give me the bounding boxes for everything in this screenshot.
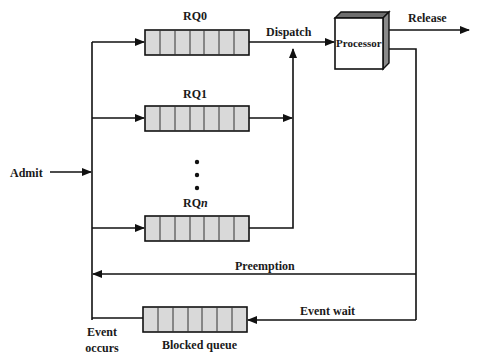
rq1-label: RQ1 bbox=[183, 88, 207, 101]
rqn-label: RQn bbox=[183, 197, 208, 210]
event-wait-label: Event wait bbox=[300, 305, 355, 318]
queue-blocked bbox=[143, 307, 247, 332]
diagram-canvas bbox=[0, 0, 477, 359]
queue-rqn bbox=[145, 216, 249, 241]
release-label: Release bbox=[408, 12, 447, 25]
dispatch-label: Dispatch bbox=[266, 26, 311, 39]
ellipsis-dots bbox=[195, 160, 199, 190]
processor-label: Processor bbox=[336, 37, 382, 50]
preemption-label: Preemption bbox=[235, 260, 295, 273]
queue-rq0 bbox=[145, 30, 249, 55]
admit-label: Admit bbox=[10, 167, 43, 180]
collector-line bbox=[249, 49, 293, 228]
processor-return-line bbox=[386, 49, 416, 320]
blocked-queue-label: Blocked queue bbox=[162, 339, 237, 352]
event-occurs-label: Event occurs bbox=[80, 326, 124, 355]
queue-rq1 bbox=[145, 106, 249, 131]
rq0-label: RQ0 bbox=[183, 10, 207, 23]
